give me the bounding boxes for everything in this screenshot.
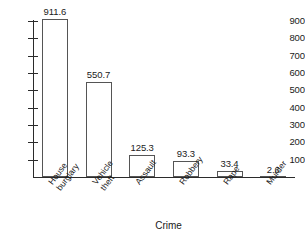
y-tick-label-400: 400 [281, 103, 305, 113]
y-tick-label-900: 900 [281, 16, 305, 26]
y-tick-label-300: 300 [281, 120, 305, 130]
bar-value-label-robbery: 93.3 [177, 149, 195, 159]
x-axis-title: Crime [0, 221, 305, 231]
y-tick-700 [28, 56, 38, 57]
bar-value-label-house-burglary: 911.6 [44, 7, 67, 17]
y-tick-label-700: 700 [281, 51, 305, 61]
y-tick-label-800: 800 [281, 33, 305, 43]
x-axis-title-text: Crime [123, 221, 182, 231]
y-tick-900 [28, 21, 38, 22]
bar-value-label-vehicle-theft: 550.7 [87, 70, 110, 80]
bar-value-label-assault: 125.3 [131, 143, 154, 153]
plot-area: 900800700600500400300200100 911.6550.712… [0, 0, 305, 241]
y-tick-label-500: 500 [281, 85, 305, 95]
y-tick-400 [28, 108, 38, 109]
y-tick-100 [28, 160, 38, 161]
y-axis-line [33, 20, 34, 178]
bar-house-burglary [42, 19, 68, 177]
bar-chart: 900800700600500400300200100 911.6550.712… [0, 0, 305, 241]
y-tick-200 [28, 142, 38, 143]
y-tick-500 [28, 90, 38, 91]
y-tick-300 [28, 125, 38, 126]
y-tick-label-600: 600 [281, 68, 305, 78]
y-tick-800 [28, 38, 38, 39]
y-tick-600 [28, 73, 38, 74]
y-tick-label-200: 200 [281, 137, 305, 147]
